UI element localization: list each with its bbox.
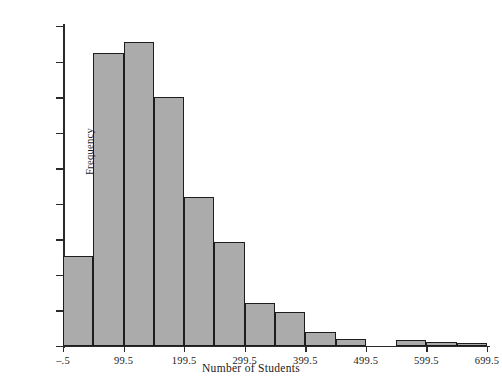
histogram-bar [275,312,305,346]
histogram-bar [154,97,184,346]
histogram-bar [396,340,426,346]
y-axis-tick [56,239,63,240]
histogram-bar [124,42,154,346]
y-axis-tick [56,310,63,311]
y-axis-tick [56,133,63,134]
histogram-bar [214,242,244,346]
x-axis-tick [184,346,185,352]
x-axis-tick [63,346,64,352]
x-axis-tick [305,346,306,352]
y-axis-title: Frequency [84,82,95,222]
y-axis-tick [56,97,63,98]
y-axis-tick [56,346,63,347]
y-axis-tick [56,275,63,276]
histogram-bar [336,339,366,346]
histogram-bar [63,256,93,346]
histogram-bar [93,53,123,346]
histogram-bar [184,197,214,346]
histogram-bar [457,343,487,346]
x-axis-tick [366,346,367,352]
y-axis-tick [56,204,63,205]
y-axis-tick [56,168,63,169]
x-axis-tick [487,346,488,352]
y-axis-tick [56,26,63,27]
plot-area: 0255075100125150175200225 –.599.5199.529… [63,26,487,346]
x-axis-tick [426,346,427,352]
histogram-bar [426,342,456,346]
histogram-bar [305,332,335,346]
histogram-bar [245,303,275,346]
histogram-figure: 0255075100125150175200225 –.599.5199.529… [0,0,502,391]
x-axis-title: Number of Students [0,362,502,374]
y-axis-tick [56,62,63,63]
x-axis-tick [124,346,125,352]
x-axis-tick [245,346,246,352]
